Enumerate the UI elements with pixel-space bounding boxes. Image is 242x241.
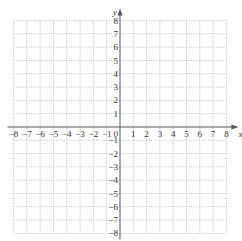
y-tick-label: −2 xyxy=(108,149,118,159)
y-tick-label: −5 xyxy=(108,189,118,199)
coordinate-plane: −8−7−6−5−4−3−2−112345678−8−7−6−5−4−3−2−1… xyxy=(0,0,242,241)
x-tick-label: −2 xyxy=(89,129,99,139)
x-tick-label: 5 xyxy=(184,129,189,139)
y-tick-label: −7 xyxy=(108,215,118,225)
x-tick-label: 7 xyxy=(211,129,216,139)
x-axis-arrow-icon xyxy=(231,125,238,130)
axes xyxy=(8,9,239,240)
tick-labels: −8−7−6−5−4−3−2−112345678−8−7−6−5−4−3−2−1… xyxy=(9,7,242,239)
y-tick-label: 1 xyxy=(114,109,119,119)
y-tick-label: 3 xyxy=(114,82,119,92)
x-tick-label: 3 xyxy=(158,129,163,139)
x-tick-label: 2 xyxy=(144,129,149,139)
y-axis-label: y xyxy=(112,7,117,17)
x-tick-label: 4 xyxy=(171,129,176,139)
x-tick-label: −4 xyxy=(62,129,72,139)
y-tick-label: −6 xyxy=(108,202,118,212)
x-tick-label: −7 xyxy=(22,129,32,139)
y-tick-label: 6 xyxy=(114,42,119,52)
x-tick-label: 1 xyxy=(131,129,136,139)
y-tick-label: −4 xyxy=(108,175,118,185)
y-tick-label: −3 xyxy=(108,162,118,172)
y-tick-label: 4 xyxy=(114,69,119,79)
x-tick-label: −8 xyxy=(9,129,19,139)
y-tick-label: −8 xyxy=(108,228,118,238)
y-tick-label: 2 xyxy=(114,95,119,105)
x-axis-label: x xyxy=(237,129,242,139)
y-axis-arrow-icon xyxy=(118,9,123,16)
x-tick-label: −6 xyxy=(35,129,45,139)
x-tick-label: −3 xyxy=(75,129,85,139)
x-tick-label: 6 xyxy=(198,129,203,139)
x-tick-label: 8 xyxy=(224,129,229,139)
x-tick-label: −5 xyxy=(49,129,59,139)
origin-label: 0 xyxy=(114,129,119,139)
y-tick-label: 5 xyxy=(114,56,119,66)
y-tick-label: 8 xyxy=(114,16,119,26)
y-tick-label: 7 xyxy=(114,29,119,39)
